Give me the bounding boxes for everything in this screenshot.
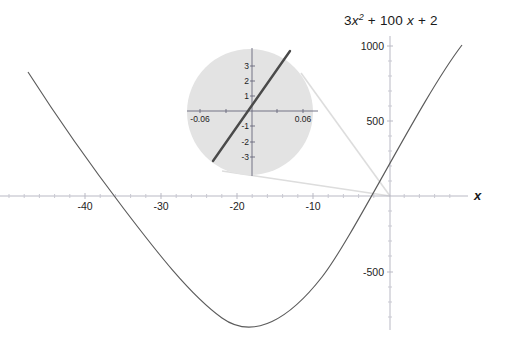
title-variable-2: x <box>407 13 414 28</box>
main-y-axis <box>387 36 393 330</box>
plot-figure: 3x2 + 100 x + 2 -40 -30 -20 -10 1000 500… <box>0 0 505 337</box>
y-tick-label-1000: 1000 <box>361 41 384 52</box>
title-variable: x <box>352 13 359 28</box>
inset-y-tick-label-1: 1 <box>244 92 249 101</box>
inset-y-tick-label-3: 3 <box>244 62 249 71</box>
inset-magnifier <box>187 48 318 176</box>
title-term-two: + 100 <box>368 13 403 28</box>
inset-y-tick-label--3: -3 <box>241 153 249 162</box>
y-tick-label--500: -500 <box>363 267 384 278</box>
x-tick-label--40: -40 <box>77 201 92 212</box>
inset-x-tick-label--0.06: -0.06 <box>190 115 209 124</box>
title-term-three: + 2 <box>418 13 438 28</box>
title-exponent: 2 <box>359 12 364 22</box>
plot-canvas <box>0 0 505 337</box>
inset-y-tick-label-2: 2 <box>244 77 249 86</box>
y-tick-label-500: 500 <box>366 116 384 127</box>
main-x-axis <box>0 193 468 199</box>
x-tick-label--10: -10 <box>305 201 320 212</box>
x-axis-label: x <box>474 189 481 202</box>
x-tick-label--30: -30 <box>153 201 168 212</box>
title-coefficient: 3 <box>344 13 352 28</box>
inset-y-tick-label--1: -1 <box>241 122 249 131</box>
inset-disk <box>187 49 313 175</box>
plot-title: 3x2 + 100 x + 2 <box>344 14 438 28</box>
x-tick-label--20: -20 <box>229 201 244 212</box>
inset-x-tick-label-0.06: 0.06 <box>295 115 312 124</box>
inset-y-tick-label--2: -2 <box>241 138 249 147</box>
